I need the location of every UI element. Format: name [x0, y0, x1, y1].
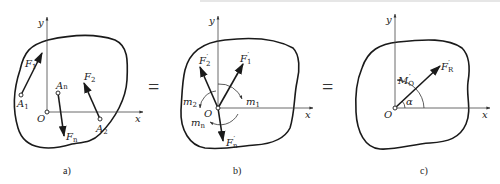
panel-a: y x O F1 A1 An Fn F2 A2 a)	[14, 17, 143, 177]
origin-label: O	[37, 113, 45, 124]
panel-c: y x O FR′ MO′ α c)	[356, 14, 490, 177]
resultant-force-label: FR′	[440, 59, 454, 74]
force-vector-fn	[58, 93, 64, 136]
equals-sign-1: =	[148, 76, 159, 98]
force-label-fn: Fn	[65, 131, 78, 144]
x-axis-label: x	[305, 109, 311, 120]
point-label-a2: A2	[95, 123, 108, 136]
origin-point	[45, 110, 49, 114]
force-label-f1: F1	[24, 58, 36, 71]
angle-label-alpha: α	[406, 96, 413, 107]
resultant-force-vector	[395, 66, 440, 108]
point-a1	[19, 93, 23, 97]
panel-b: y x O F1′ F2′ Fn′ m1 m2 mn b)	[181, 15, 313, 177]
moment-label-m2: m2	[183, 96, 197, 109]
resultant-moment-label: MO′	[397, 73, 414, 88]
cropped-text-residue	[200, 0, 500, 2]
moment-arc-mn	[210, 114, 238, 125]
force-vector-f1-prime	[218, 64, 243, 108]
point-label-an: An	[55, 80, 68, 91]
force-label-f2-prime: F2′	[198, 53, 210, 68]
origin-point	[393, 106, 397, 110]
point-a2	[98, 117, 102, 121]
panel-caption-a: a)	[63, 165, 71, 177]
origin-label: O	[204, 108, 212, 119]
force-system-diagram: y x O F1 A1 An Fn F2 A2 a) =	[0, 0, 500, 184]
panel-caption-b: b)	[233, 165, 241, 177]
equals-sign-2: =	[322, 76, 333, 98]
point-an	[56, 91, 60, 95]
force-label-fn-prime: Fn′	[225, 135, 238, 150]
y-axis-label: y	[37, 17, 44, 28]
origin-point	[216, 106, 220, 110]
point-label-a1: A1	[16, 98, 29, 111]
y-axis-label: y	[208, 15, 215, 26]
panel-caption-c: c)	[420, 165, 428, 177]
force-vector-f2-prime	[200, 67, 218, 108]
moment-label-m1: m1	[246, 96, 260, 109]
x-axis-label: x	[482, 109, 488, 120]
force-vector-f2	[84, 83, 100, 119]
force-label-f2: F2	[83, 71, 95, 84]
force-label-f1-prime: F1′	[239, 51, 251, 66]
origin-label: O	[384, 109, 392, 120]
y-axis-label: y	[385, 14, 392, 25]
x-axis-label: x	[135, 113, 141, 124]
rigid-body-outline	[356, 40, 469, 149]
